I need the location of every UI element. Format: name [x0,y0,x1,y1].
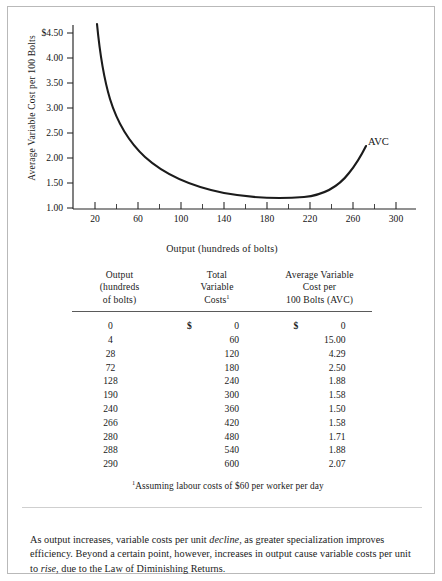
svg-text:220: 220 [303,213,318,224]
cell-output: 0 [72,319,167,333]
cell-output: 72 [72,361,167,375]
cell-output: 4 [72,333,167,347]
cell-total-variable-costs: 60 [167,333,267,347]
cell-output: 240 [72,402,167,416]
cell-total-variable-costs: 600 [167,457,267,471]
table-row: 2885401.88 [72,443,372,457]
cell-total-variable-costs: 240 [167,374,267,388]
svg-text:140: 140 [217,213,232,224]
cell-average-variable-cost: 15.00 [267,333,372,347]
cell-output: 190 [72,388,167,402]
svg-text:3.00: 3.00 [46,102,63,113]
figure-caption: As output increases, variable costs per … [30,533,420,576]
cell-output: 290 [72,457,167,471]
table-row: 281204.29 [72,347,372,361]
y-axis-tick-labels: $4.50 4.00 3.50 3.00 2.50 2.00 1.50 1.00 [41,27,63,213]
column-header-total-variable-costs: Total Variable Costs1 [167,269,267,308]
cell-output: 280 [72,429,167,443]
svg-text:300: 300 [389,213,404,224]
cell-total-variable-costs: 180 [167,361,267,375]
table-row: 2804801.71 [72,429,372,443]
data-table-container: Output (hundreds of bolts) Total Variabl… [8,269,436,471]
cell-average-variable-cost: 1.88 [267,374,372,388]
cell-output: 28 [72,347,167,361]
caption-part-1: As output increases, variable costs per … [30,534,209,545]
cell-output: 128 [72,374,167,388]
cell-average-variable-cost: 1.71 [267,429,372,443]
table-row: 2906002.07 [72,457,372,471]
cell-average-variable-cost: 1.50 [267,402,372,416]
avc-curve [97,24,366,198]
svg-text:3.50: 3.50 [46,77,63,88]
x-axis-minor-ticks [117,204,375,209]
svg-text:20: 20 [90,213,100,224]
cell-output: 266 [72,416,167,430]
table-row: 0$0$0 [72,319,372,333]
cell-total-variable-costs: 540 [167,443,267,457]
svg-text:2.50: 2.50 [46,127,63,138]
cell-total-variable-costs: 480 [167,429,267,443]
table-row: 721802.50 [72,361,372,375]
cell-average-variable-cost: 1.88 [267,443,372,457]
cell-average-variable-cost: $0 [267,319,372,333]
table-row: 46015.00 [72,333,372,347]
svg-text:4.00: 4.00 [46,52,63,63]
caption-emphasis-decline: decline [209,534,239,545]
avc-data-table: Output (hundreds of bolts) Total Variabl… [72,269,372,471]
table-footnote: 1Assuming labour costs of $60 per worker… [8,481,436,491]
avc-chart: Average Variable Cost per 100 Bolts $4.5… [8,7,436,269]
cell-total-variable-costs: $0 [167,319,267,333]
table-header-row: Output (hundreds of bolts) Total Variabl… [72,269,372,308]
figure-frame: Average Variable Cost per 100 Bolts $4.5… [7,6,435,574]
cell-average-variable-cost: 2.50 [267,361,372,375]
footnote-marker: 1 [226,293,229,300]
svg-text:180: 180 [260,213,275,224]
svg-text:1.00: 1.00 [46,202,63,213]
table-row: 1282401.88 [72,374,372,388]
cell-average-variable-cost: 1.58 [267,388,372,402]
cell-total-variable-costs: 360 [167,402,267,416]
column-header-average-variable-cost: Average Variable Cost per 100 Bolts (AVC… [267,269,372,308]
cell-output: 288 [72,443,167,457]
table-row: 1903001.58 [72,388,372,402]
caption-part-3: , due to the Law of Diminishing Returns. [56,563,225,574]
plot-area: $4.50 4.00 3.50 3.00 2.50 2.00 1.50 1.00 [8,7,436,242]
avc-series-label: AVC [368,136,389,147]
cell-total-variable-costs: 420 [167,416,267,430]
table-row: 2403601.50 [72,402,372,416]
svg-text:$4.50: $4.50 [41,27,63,38]
table-body: 0$0$046015.00281204.29721802.501282401.8… [72,319,372,471]
cell-average-variable-cost: 1.58 [267,416,372,430]
caption-emphasis-rise: rise [41,563,56,574]
cell-total-variable-costs: 120 [167,347,267,361]
column-header-output: Output (hundreds of bolts) [72,269,167,308]
footnote-text: Assuming labour costs of $60 per worker … [135,481,324,491]
table-row: 2664201.58 [72,416,372,430]
cell-average-variable-cost: 4.29 [267,347,372,361]
y-axis-ticks [67,33,73,208]
x-axis-title: Output (hundreds of bolts) [8,243,436,254]
svg-text:260: 260 [346,213,361,224]
svg-text:60: 60 [133,213,143,224]
cell-total-variable-costs: 300 [167,388,267,402]
caption-divider [22,507,422,508]
svg-text:100: 100 [174,213,189,224]
cell-average-variable-cost: 2.07 [267,457,372,471]
svg-text:1.50: 1.50 [46,177,63,188]
svg-text:2.00: 2.00 [46,152,63,163]
x-axis-tick-labels: 20 60 100 140 180 220 260 300 [90,213,403,224]
